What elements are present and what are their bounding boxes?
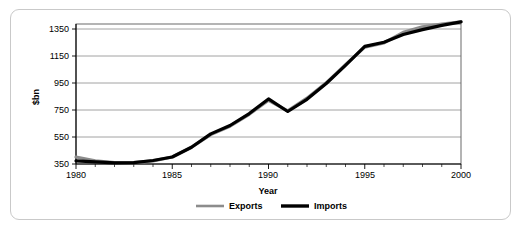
chart-legend: Exports Imports bbox=[196, 201, 347, 211]
trade-line-chart: 1350 1150 950 750 550 350 1980 1985 1990… bbox=[11, 10, 512, 221]
y-tick-label-1350: 1350 bbox=[49, 24, 69, 34]
y-tick-labels: 1350 1150 950 750 550 350 bbox=[49, 24, 69, 169]
y-tick-marks bbox=[72, 29, 76, 164]
x-tick-marks bbox=[76, 164, 461, 169]
legend-label-exports: Exports bbox=[229, 201, 263, 211]
chart-figure-frame: 1350 1150 950 750 550 350 1980 1985 1990… bbox=[10, 9, 511, 220]
y-tick-label-1150: 1150 bbox=[50, 51, 69, 61]
legend-label-imports: Imports bbox=[314, 201, 347, 211]
y-tick-label-350: 350 bbox=[54, 159, 69, 169]
y-tick-label-950: 950 bbox=[54, 78, 69, 88]
series-line-imports bbox=[76, 22, 461, 163]
y-tick-label-750: 750 bbox=[54, 105, 69, 115]
x-tick-label-1985: 1985 bbox=[162, 170, 182, 180]
x-tick-label-1995: 1995 bbox=[355, 170, 375, 180]
x-tick-label-1980: 1980 bbox=[66, 170, 86, 180]
y-axis-title: $bn bbox=[31, 89, 41, 105]
y-tick-label-550: 550 bbox=[54, 132, 69, 142]
x-tick-labels: 1980 1985 1990 1995 2000 bbox=[66, 170, 471, 180]
x-tick-label-2000: 2000 bbox=[451, 170, 471, 180]
series-line-exports bbox=[76, 22, 461, 163]
x-tick-label-1990: 1990 bbox=[258, 170, 278, 180]
data-series-group bbox=[76, 22, 461, 163]
x-axis-title: Year bbox=[258, 186, 278, 196]
plot-area-border bbox=[76, 24, 461, 164]
gridlines bbox=[76, 29, 461, 137]
